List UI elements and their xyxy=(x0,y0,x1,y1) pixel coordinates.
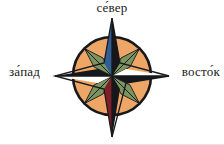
compass-rose-graphic xyxy=(42,11,182,141)
compass-label-east: восто́к xyxy=(182,65,220,79)
compass-rose-figure: се́вер за́пад восто́к xyxy=(0,0,224,145)
compass-label-west: за́пад xyxy=(9,65,40,79)
compass-rose-svg xyxy=(42,11,182,141)
figure-baseline xyxy=(0,144,224,145)
